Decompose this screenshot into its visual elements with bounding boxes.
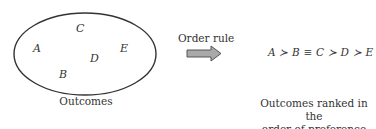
outcome-a: A	[33, 42, 41, 55]
outcome-e: E	[120, 42, 128, 55]
order-rule-arrow-icon	[187, 46, 221, 61]
outcome-d: D	[90, 52, 99, 65]
outcome-b: B	[59, 68, 67, 81]
ranking-expression: A ≻ B ≡ C ≻ D ≻ E	[268, 46, 373, 58]
ranking-caption-line1: Outcomes ranked in the	[252, 97, 376, 123]
ranking-caption-line2: order of preference	[252, 123, 376, 129]
order-rule-label: Order rule	[178, 32, 228, 44]
ranking-caption: Outcomes ranked in the order of preferen…	[252, 97, 376, 129]
outcomes-caption: Outcomes	[50, 95, 122, 107]
outcome-c: C	[76, 22, 84, 35]
